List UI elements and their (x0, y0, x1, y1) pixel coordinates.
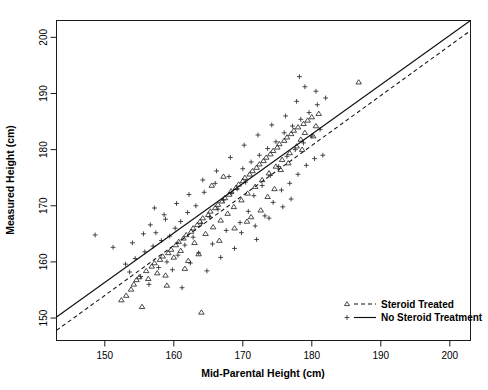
y-tick-label: 170 (39, 197, 50, 214)
plot-canvas: 150160170180190200 150160170180190200 Mi… (0, 0, 488, 390)
x-tick-label: 190 (372, 350, 389, 361)
y-tick-label: 180 (39, 141, 50, 158)
legend-label: No Steroid Treatment (381, 312, 483, 323)
y-tick-label: 190 (39, 85, 50, 102)
x-tick-label: 150 (96, 350, 113, 361)
x-tick-label: 180 (303, 350, 320, 361)
x-axis-title: Mid-Parental Height (cm) (201, 367, 325, 379)
legend-label: Steroid Treated (381, 299, 454, 310)
y-tick-label: 200 (39, 29, 50, 46)
y-tick-label: 160 (39, 253, 50, 270)
x-tick-label: 200 (441, 350, 458, 361)
scatter-plot-figure: 150160170180190200 150160170180190200 Mi… (0, 0, 488, 390)
x-tick-label: 160 (165, 350, 182, 361)
y-axis-title: Measured Height (cm) (4, 125, 16, 235)
y-tick-label: 150 (39, 309, 50, 326)
x-tick-label: 170 (234, 350, 251, 361)
